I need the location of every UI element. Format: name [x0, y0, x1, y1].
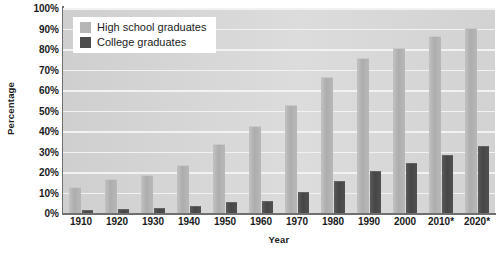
bar-college	[262, 201, 273, 213]
y-axis-tick-label: 40%	[39, 126, 59, 137]
bar-high-school	[285, 105, 297, 213]
y-axis-tick-labels: 0%10%20%30%40%50%60%70%80%90%100%	[22, 0, 62, 216]
bar-high-school	[429, 36, 441, 213]
bar-college	[82, 210, 93, 213]
x-axis-tick-label: 2000	[394, 216, 416, 227]
bar-college	[334, 181, 345, 213]
x-axis-tick-label: 1910	[70, 216, 92, 227]
y-axis-tick-label: 50%	[39, 105, 59, 116]
legend-item: High school graduates	[80, 21, 206, 33]
bar-group	[387, 8, 423, 213]
bar-college	[298, 192, 309, 214]
bar-group	[459, 8, 495, 213]
bar-college	[442, 155, 453, 213]
x-axis-tick-label: 1960	[250, 216, 272, 227]
y-axis-tick-label: 0%	[45, 208, 59, 219]
y-axis-title: Percentage	[0, 0, 22, 216]
y-axis-tick-label: 80%	[39, 44, 59, 55]
legend-swatch-high-school-icon	[80, 22, 91, 33]
bar-high-school	[393, 48, 405, 213]
bar-group	[243, 8, 279, 213]
bar-high-school	[105, 179, 117, 213]
y-axis-tick-label: 70%	[39, 64, 59, 75]
bar-high-school	[357, 58, 369, 213]
y-axis-tick-label: 10%	[39, 187, 59, 198]
x-axis-tick-label: 1920	[106, 216, 128, 227]
legend-label: High school graduates	[97, 21, 206, 33]
y-axis-title-text: Percentage	[6, 81, 17, 134]
x-axis-title: Year	[63, 234, 495, 245]
legend-item: College graduates	[80, 36, 206, 48]
bar-high-school	[177, 165, 189, 213]
chart-legend: High school graduatesCollege graduates	[73, 17, 216, 53]
bar-college	[118, 209, 129, 213]
x-axis-tick-label: 1980	[322, 216, 344, 227]
bar-high-school	[141, 175, 153, 213]
bar-high-school	[321, 77, 333, 213]
bar-high-school	[465, 28, 477, 214]
x-axis-tick-label: 2020*	[464, 216, 490, 227]
x-axis-tick-label: 1970	[286, 216, 308, 227]
y-axis-tick-label: 60%	[39, 85, 59, 96]
x-axis-tick-label: 1950	[214, 216, 236, 227]
bar-college	[154, 208, 165, 213]
y-axis-tick-label: 90%	[39, 23, 59, 34]
bar-college	[190, 206, 201, 213]
bar-college	[478, 146, 489, 213]
bar-college	[226, 202, 237, 213]
bar-group	[315, 8, 351, 213]
bar-group	[423, 8, 459, 213]
x-axis-tick-label: 1990	[358, 216, 380, 227]
bar-high-school	[213, 144, 225, 213]
bar-group	[279, 8, 315, 213]
x-axis-tick-label: 2010*	[428, 216, 454, 227]
bar-high-school	[249, 126, 261, 213]
x-axis-tick-label: 1930	[142, 216, 164, 227]
bar-college	[370, 171, 381, 213]
x-axis-tick-labels: 1910192019301940195019601970198019902000…	[63, 216, 495, 232]
legend-swatch-college-icon	[80, 37, 91, 48]
bar-high-school	[69, 187, 81, 213]
y-axis-tick-label: 20%	[39, 167, 59, 178]
y-axis-tick-label: 30%	[39, 146, 59, 157]
y-axis-tick-label: 100%	[33, 3, 59, 14]
bar-group	[351, 8, 387, 213]
x-axis-line	[62, 213, 496, 215]
bar-college	[406, 163, 417, 213]
x-axis-tick-label: 1940	[178, 216, 200, 227]
bar-chart: Percentage 0%10%20%30%40%50%60%70%80%90%…	[0, 0, 504, 253]
legend-label: College graduates	[97, 36, 186, 48]
